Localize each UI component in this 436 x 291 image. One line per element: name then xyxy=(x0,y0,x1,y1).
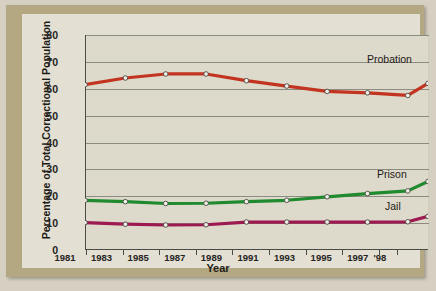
data-point xyxy=(163,72,168,77)
series-label-jail: Jail xyxy=(385,200,401,212)
series-prison xyxy=(85,179,428,206)
series-probation xyxy=(85,72,428,98)
data-point xyxy=(85,198,87,203)
line-prison xyxy=(85,181,428,203)
data-point xyxy=(365,90,370,95)
data-point xyxy=(325,220,330,225)
data-point xyxy=(426,214,428,219)
data-point xyxy=(244,199,249,204)
series-label-probation: Probation xyxy=(367,53,412,65)
data-point xyxy=(123,199,128,204)
y-tick-label-60: 60 xyxy=(34,84,58,94)
data-point xyxy=(204,222,209,227)
data-point xyxy=(85,220,87,225)
data-point xyxy=(406,189,411,194)
x-tick-1998 xyxy=(397,250,398,255)
data-point xyxy=(365,220,370,225)
y-tick-label-70: 70 xyxy=(34,57,58,67)
data-point xyxy=(204,201,209,206)
data-point xyxy=(406,219,411,224)
y-tick-label-10: 10 xyxy=(34,218,58,228)
y-tick-label-20: 20 xyxy=(34,191,58,201)
data-point xyxy=(163,201,168,206)
line-jail xyxy=(85,216,428,225)
data-point xyxy=(284,198,289,203)
chart-canvas: Percentage of Total Correctional Populat… xyxy=(22,14,420,268)
y-axis-title: Percentage of Total Correctional Populat… xyxy=(40,20,52,240)
data-point xyxy=(426,81,428,86)
data-point xyxy=(244,78,249,83)
data-point xyxy=(204,72,209,77)
line-probation xyxy=(85,74,428,96)
data-point xyxy=(406,93,411,98)
data-point xyxy=(244,220,249,225)
series-label-prison: Prison xyxy=(377,168,407,180)
y-tick-label-30: 30 xyxy=(34,164,58,174)
y-tick-label-80: 80 xyxy=(34,30,58,40)
data-point xyxy=(426,179,428,184)
y-tick-label-50: 50 xyxy=(34,111,58,121)
x-axis-title: Year xyxy=(0,262,436,274)
data-point xyxy=(284,220,289,225)
data-point xyxy=(325,194,330,199)
data-point xyxy=(123,222,128,227)
series-jail xyxy=(85,214,428,227)
data-point xyxy=(163,223,168,228)
data-point xyxy=(284,84,289,89)
data-point xyxy=(325,89,330,94)
data-point xyxy=(123,76,128,81)
chart-figure: Percentage of Total Correctional Populat… xyxy=(0,0,436,291)
series-lines xyxy=(85,35,428,250)
data-point xyxy=(365,191,370,196)
y-tick-label-40: 40 xyxy=(34,138,58,148)
data-point xyxy=(85,82,87,87)
